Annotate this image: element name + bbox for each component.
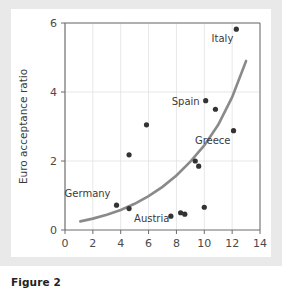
figure-caption: Figure 2 bbox=[11, 276, 61, 288]
data-point bbox=[182, 212, 187, 217]
x-axis-tick-label: 6 bbox=[145, 237, 152, 250]
data-point-label: Germany bbox=[65, 188, 111, 199]
data-point bbox=[213, 107, 218, 112]
x-axis-tick-label: 0 bbox=[62, 237, 69, 250]
data-point bbox=[196, 164, 201, 169]
data-point bbox=[234, 27, 239, 32]
x-axis-tick-label: 12 bbox=[225, 237, 239, 250]
data-point bbox=[203, 98, 208, 103]
data-point-label: Italy bbox=[212, 33, 234, 44]
y-axis-tick-label: 6 bbox=[50, 17, 57, 30]
figure-container: 024681012140246Average inflation 1980–96… bbox=[0, 0, 282, 301]
y-axis-tick-label: 2 bbox=[50, 155, 57, 168]
data-point-label: Spain bbox=[172, 96, 200, 107]
data-point bbox=[144, 122, 149, 127]
x-axis-tick-label: 2 bbox=[89, 237, 96, 250]
y-axis-tick-label: 0 bbox=[50, 224, 57, 237]
data-point bbox=[126, 206, 131, 211]
data-point bbox=[202, 205, 207, 210]
data-point bbox=[114, 203, 119, 208]
x-axis-tick-label: 10 bbox=[197, 237, 211, 250]
y-axis-tick-label: 4 bbox=[50, 86, 57, 99]
x-axis-tick-label: 4 bbox=[117, 237, 124, 250]
data-point-label: Greece bbox=[195, 135, 231, 146]
data-point bbox=[126, 152, 131, 157]
y-axis-title: Euro acceptance ratio bbox=[17, 69, 29, 184]
scatter-chart: 024681012140246Average inflation 1980–96… bbox=[11, 9, 271, 257]
x-axis-tick-label: 14 bbox=[253, 237, 267, 250]
x-axis-tick-label: 8 bbox=[173, 237, 180, 250]
data-point bbox=[231, 128, 236, 133]
data-point-label: Austria bbox=[134, 213, 169, 224]
data-point bbox=[193, 158, 198, 163]
figure-outer-frame: 024681012140246Average inflation 1980–96… bbox=[0, 0, 282, 266]
chart-panel: 024681012140246Average inflation 1980–96… bbox=[11, 9, 271, 257]
